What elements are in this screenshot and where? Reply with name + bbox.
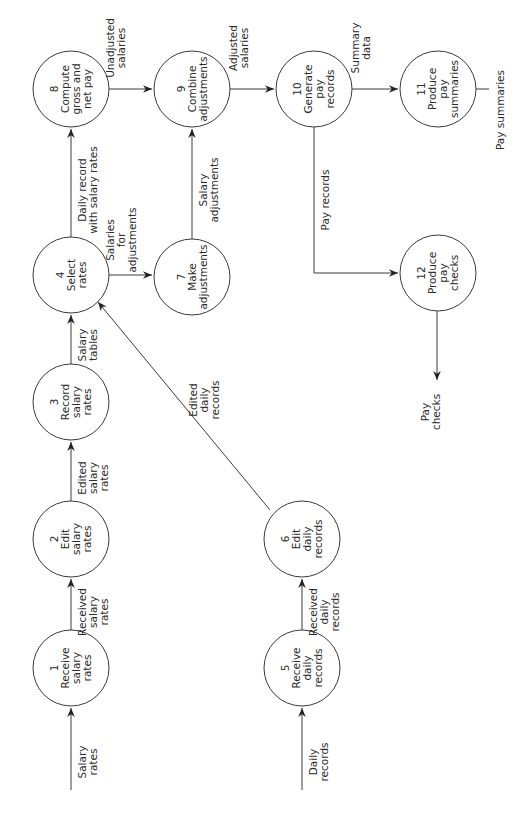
process-name-line: net pay [81, 69, 93, 109]
flow-label-edited-salary-rates: Editedsalaryrates [76, 461, 110, 494]
flow-salary-rates [67, 708, 75, 790]
process-9: 9Combineadjustments [154, 51, 230, 127]
flow-label-daily-record-with-salary-rates-line: with salary rates [87, 146, 99, 234]
flow-label-pay-checks-line: checks [430, 394, 442, 430]
data-flow-diagram: 1Receivesalaryrates2Editsalaryrates3Reco… [0, 0, 521, 831]
flow-label-pay-summaries: Pay summaries [494, 70, 506, 150]
process-name-line: summaries [448, 60, 460, 118]
process-11: 11Producepaysummaries [400, 51, 476, 127]
process-name-line: records [312, 519, 324, 558]
process-name-line: records [324, 69, 336, 108]
flow-label-salary-adjustments: Salaryadjustments [197, 157, 220, 222]
flow-label-received-salary-rates-line: rates [98, 599, 110, 626]
flow-label-pay-records: Pay records [319, 170, 331, 231]
flow-label-received-daily-records-line: records [329, 592, 341, 631]
flow-label-pay-records-line: Pay records [319, 170, 331, 231]
flow-label-salary-tables-line: tables [87, 329, 99, 361]
flow-label-unadjusted-salaries: Unadjustedsalaries [104, 18, 127, 78]
process-5: 5Receivedailyrecords [264, 630, 340, 706]
process-1: 1Receivesalaryrates [33, 630, 109, 706]
process-name-line: rates [81, 655, 93, 682]
flow-label-adjusted-salaries: Adjustedsalaries [227, 25, 250, 71]
flow-label-salaries-for-adjustments-line: adjustments [126, 207, 138, 272]
process-name-line: adjustments [197, 244, 209, 309]
process-12: 12Producepaychecks [400, 235, 476, 311]
flow-edited-salary-rates [67, 442, 75, 501]
flow-label-salary-adjustments-line: adjustments [208, 157, 220, 222]
process-name-line: rates [81, 526, 93, 553]
process-8: 8Computegross andnet pay [33, 51, 109, 127]
flow-salary-tables [67, 315, 75, 364]
flow-label-received-salary-rates: Receivedsalaryrates [76, 588, 110, 636]
process-name-line: rates [81, 389, 93, 416]
process-name-line: rates [76, 262, 88, 289]
flow-label-pay-checks: Paychecks [419, 394, 442, 430]
flow-line [98, 302, 270, 510]
flow-label-salary-rates-line: rates [87, 749, 99, 776]
flow-label-edited-daily-records-line: records [209, 380, 221, 419]
process-2: 2Editsalaryrates [33, 501, 109, 577]
flow-received-daily-records [298, 579, 306, 630]
flow-label-salary-rates: Salaryrates [76, 746, 99, 779]
flow-label-edited-daily-records: Editeddailyrecords [187, 380, 221, 419]
flow-adjusted-salaries [230, 85, 274, 93]
process-name-line: adjustments [197, 56, 209, 121]
flow-label-edited-salary-rates-line: rates [98, 465, 110, 492]
process-7: 7Makeadjustments [154, 239, 230, 315]
flow-label-daily-records-line: records [318, 742, 330, 781]
flow-daily-record-with-salary-rates [67, 129, 75, 237]
flow-received-salary-rates [67, 579, 75, 630]
process-name-line: checks [448, 255, 460, 291]
flow-unadjusted-salaries [109, 85, 152, 93]
process-name-line: records [312, 648, 324, 687]
process-3: 3Recordsalaryrates [33, 364, 109, 440]
flow-pay-checks [433, 311, 441, 380]
process-10: 10Generatepayrecords [276, 51, 352, 127]
flow-summary-data [352, 85, 398, 93]
flow-label-salary-tables: Salarytables [76, 329, 99, 362]
flow-label-unadjusted-salaries-line: salaries [115, 28, 127, 68]
flow-edited-daily-records [98, 302, 270, 510]
flow-label-summary-data-line: data [360, 36, 372, 60]
flow-label-summary-data: Summarydata [349, 23, 372, 74]
flow-label-daily-records: Dailyrecords [307, 742, 330, 781]
process-4: 4Selectrates [33, 237, 109, 313]
flow-label-adjusted-salaries-line: salaries [238, 28, 250, 68]
flow-daily-records [298, 708, 306, 790]
process-6: 6Editdailyrecords [264, 501, 340, 577]
flow-label-pay-summaries-line: Pay summaries [494, 70, 506, 150]
flow-salary-adjustments [188, 129, 196, 239]
flow-label-salaries-for-adjustments: Salariesforadjustments [104, 207, 138, 272]
flow-label-received-daily-records: Receiveddailyrecords [307, 588, 341, 636]
arrowhead-icon [98, 302, 107, 311]
flow-label-daily-record-with-salary-rates: Daily recordwith salary rates [76, 146, 99, 234]
